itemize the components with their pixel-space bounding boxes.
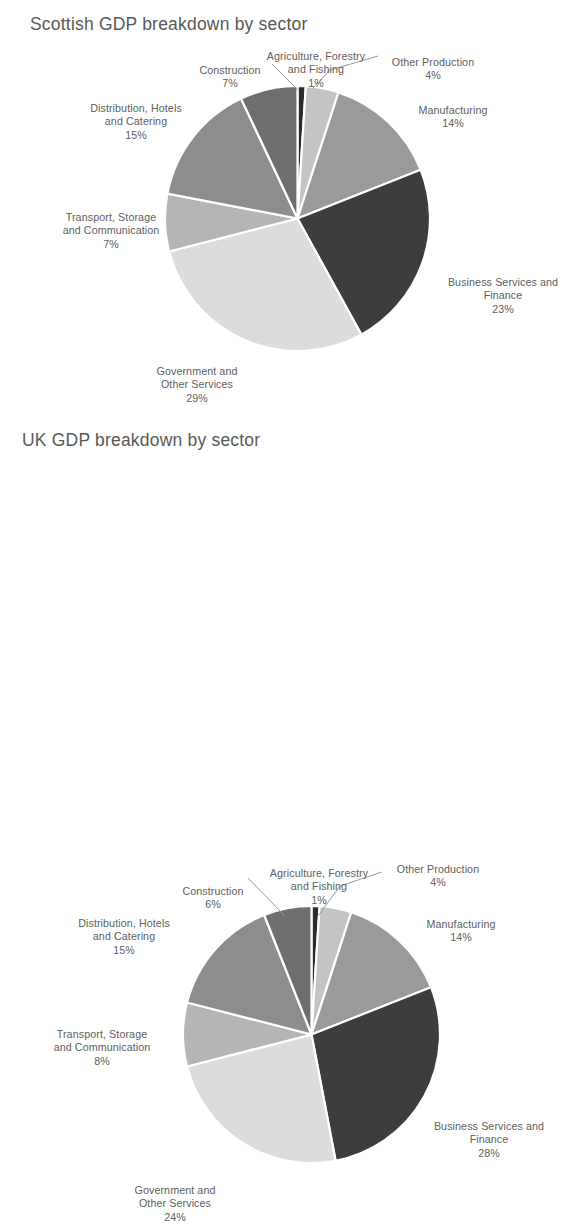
label-distribution-uk: Distribution, Hotels and Catering 15%: [66, 903, 182, 971]
label-transport-uk: Transport, Storage and Communication 8%: [38, 1014, 166, 1082]
label-construction-scottish: Construction 7%: [185, 50, 275, 104]
label-government-uk: Government and Other Services 24%: [120, 1170, 230, 1225]
label-distribution-pct-scottish: 15%: [78, 129, 194, 143]
pie-chart-scottish: [165, 86, 430, 351]
label-transport-pct-uk: 8%: [38, 1055, 166, 1069]
chart-title-scottish: Scottish GDP breakdown by sector: [30, 14, 307, 35]
pie-svg-uk: [183, 906, 440, 1163]
label-agriculture-pct-uk: 1%: [258, 894, 380, 908]
label-other-production-pct-scottish: 4%: [378, 69, 488, 83]
label-manufacturing-pct-scottish: 14%: [398, 117, 508, 131]
label-manufacturing-uk: Manufacturing 14%: [406, 904, 516, 958]
pie-chart-uk: [183, 906, 440, 1163]
chart-title-uk: UK GDP breakdown by sector: [22, 430, 260, 451]
label-transport-pct-scottish: 7%: [48, 238, 174, 252]
pie-svg-scottish: [165, 86, 430, 351]
label-government-scottish: Government and Other Services 29%: [142, 351, 252, 419]
label-business-services-uk: Business Services and Finance 28%: [424, 1106, 554, 1174]
label-other-production-uk: Other Production 4%: [383, 849, 493, 903]
label-manufacturing-pct-uk: 14%: [406, 931, 516, 945]
label-business-services-pct-uk: 28%: [424, 1147, 554, 1161]
label-construction-pct-scottish: 7%: [185, 77, 275, 91]
label-government-pct-scottish: 29%: [142, 392, 252, 406]
label-business-services-pct-scottish: 23%: [440, 303, 566, 317]
label-transport-scottish: Transport, Storage and Communication 7%: [48, 197, 174, 265]
chart-uk-gdp: UK GDP breakdown by sector Agriculture, …: [0, 412, 586, 825]
chart-scottish-gdp: Scottish GDP breakdown by sector Agricul…: [0, 0, 586, 412]
label-business-services-scottish: Business Services and Finance 23%: [440, 262, 566, 330]
label-distribution-pct-uk: 15%: [66, 944, 182, 958]
label-distribution-scottish: Distribution, Hotels and Catering 15%: [78, 88, 194, 156]
label-agriculture-uk: Agriculture, Forestry and Fishing 1%: [258, 853, 380, 921]
label-government-pct-uk: 24%: [120, 1211, 230, 1225]
label-other-production-scottish: Other Production 4%: [378, 42, 488, 96]
label-other-production-pct-uk: 4%: [383, 876, 493, 890]
label-manufacturing-scottish: Manufacturing 14%: [398, 90, 508, 144]
